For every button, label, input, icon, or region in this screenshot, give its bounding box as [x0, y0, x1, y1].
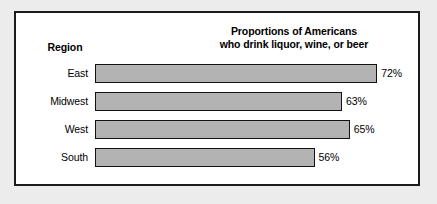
- bar-value-west: 65%: [354, 120, 375, 139]
- bar-row: East72%: [16, 64, 418, 83]
- chart-title-line-1: Proportions of Americans: [176, 25, 412, 38]
- bar-row: South56%: [16, 148, 418, 167]
- chart-frame: Proportions of Americans who drink liquo…: [14, 11, 420, 186]
- bar-east: [95, 64, 377, 83]
- region-column-header: Region: [26, 41, 104, 53]
- chart-title: Proportions of Americans who drink liquo…: [176, 25, 412, 50]
- region-label-west: West: [16, 120, 88, 139]
- chart-title-line-2: who drink liquor, wine, or beer: [176, 38, 412, 51]
- bar-west: [95, 120, 350, 139]
- bar-south: [95, 148, 315, 167]
- bar-track: 65%: [95, 120, 418, 139]
- plot-area: East72%Midwest63%West65%South56%: [16, 64, 418, 180]
- bar-row: Midwest63%: [16, 92, 418, 111]
- bar-midwest: [95, 92, 342, 111]
- bar-row: West65%: [16, 120, 418, 139]
- bar-track: 72%: [95, 64, 418, 83]
- bar-value-midwest: 63%: [346, 92, 367, 111]
- region-label-midwest: Midwest: [16, 92, 88, 111]
- bar-track: 63%: [95, 92, 418, 111]
- bar-value-east: 72%: [381, 64, 402, 83]
- region-label-south: South: [16, 148, 88, 167]
- region-label-east: East: [16, 64, 88, 83]
- bar-value-south: 56%: [319, 148, 340, 167]
- bar-track: 56%: [95, 148, 418, 167]
